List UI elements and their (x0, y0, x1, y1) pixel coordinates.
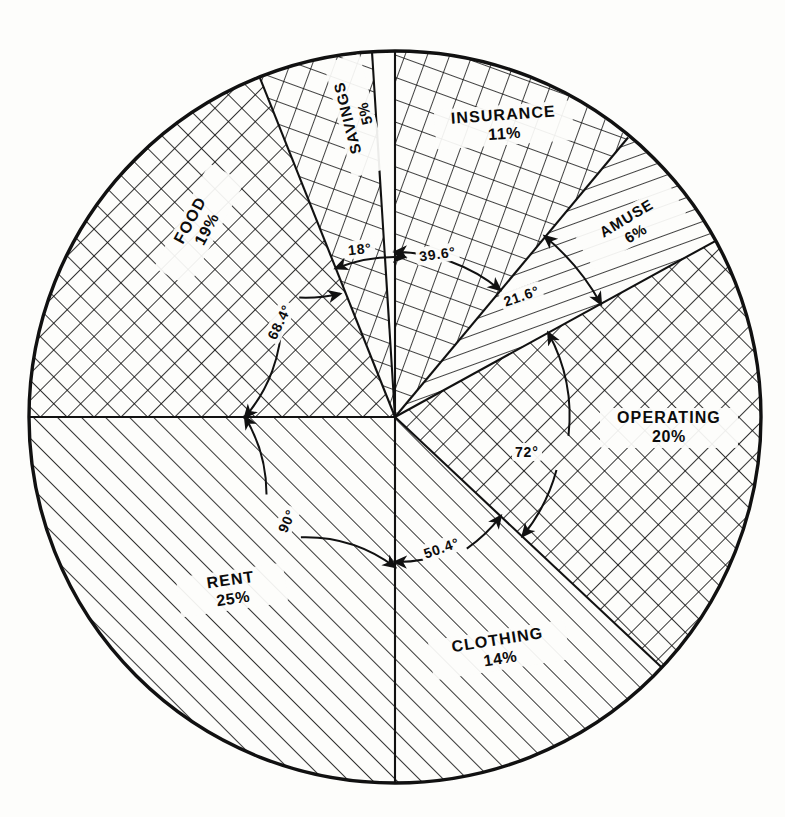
pie-chart-figure: FOOD 19% SAVINGS 5% INSURANCE 11% AMUSE … (0, 0, 785, 817)
label-operating-pct: 20% (604, 428, 734, 447)
angle-label-operating: 72° (512, 443, 542, 461)
label-operating-name: OPERATING (617, 409, 721, 426)
angle-label-savings: 18° (344, 239, 375, 260)
label-operating: OPERATING 20% (600, 408, 738, 448)
